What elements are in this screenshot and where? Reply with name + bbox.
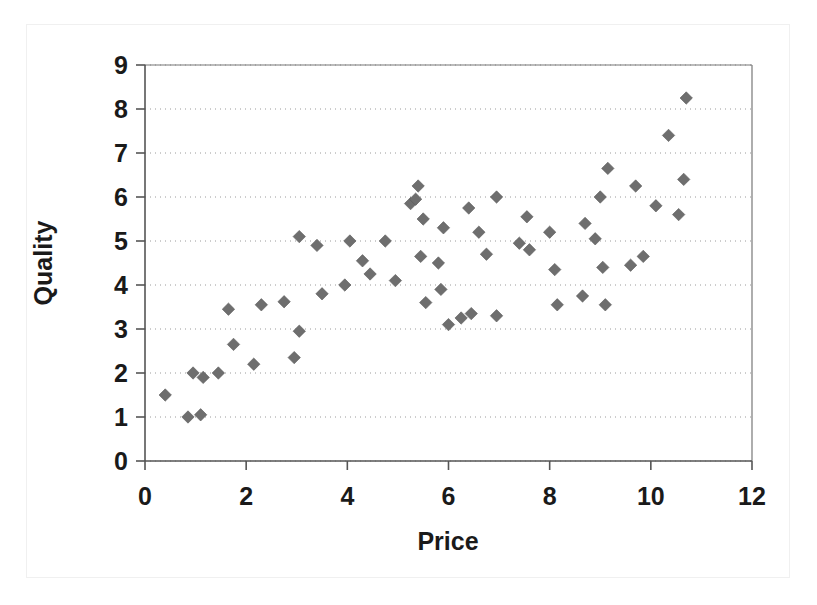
data-point-marker [389,274,401,286]
y-tick-label: 5 [114,227,128,255]
y-axis-ticks [136,65,145,461]
x-tick-label: 12 [738,482,766,510]
data-point-marker [293,325,305,337]
data-point-marker [599,299,611,311]
x-tick-label: 10 [637,482,665,510]
y-tick-label: 3 [114,315,128,343]
data-point-marker [227,338,239,350]
x-tick-label: 0 [138,482,152,510]
data-point-marker [473,226,485,238]
y-tick-label: 9 [114,51,128,79]
data-point-marker [624,259,636,271]
data-point-marker [480,248,492,260]
data-point-marker [678,173,690,185]
data-point-marker [662,129,674,141]
data-point-marker [490,191,502,203]
data-point-marker [194,409,206,421]
plot-canvas: 0123456789 024681012 Quality Price [0,0,817,605]
data-point-marker [339,279,351,291]
data-point-marker [222,303,234,315]
data-point-marker [417,213,429,225]
gridlines [145,65,752,461]
data-point-marker [602,162,614,174]
data-point-marker [379,235,391,247]
data-point-marker [248,358,260,370]
data-point-marker [212,367,224,379]
data-point-marker [356,255,368,267]
x-tick-label: 6 [442,482,456,510]
x-tick-label: 2 [239,482,253,510]
data-point-marker [513,237,525,249]
data-point-marker [278,296,290,308]
axes [145,65,752,461]
data-point-marker [672,208,684,220]
data-point-marker [521,211,533,223]
y-tick-label: 8 [114,95,128,123]
data-point-marker [437,222,449,234]
data-point-marker [637,250,649,262]
data-point-marker [543,226,555,238]
data-point-marker [414,250,426,262]
data-point-marker [589,233,601,245]
data-point-marker [579,217,591,229]
data-point-marker [293,230,305,242]
y-tick-label: 6 [114,183,128,211]
data-point-marker [549,263,561,275]
data-point-marker [420,296,432,308]
x-axis-tick-labels: 024681012 [138,482,766,510]
y-axis-tick-labels: 0123456789 [114,51,128,475]
y-axis-title: Quality [29,221,57,306]
data-point-marker [288,351,300,363]
data-point-marker [463,202,475,214]
data-point-marker [255,299,267,311]
data-point-marker [490,310,502,322]
y-tick-label: 7 [114,139,128,167]
x-tick-label: 8 [543,482,557,510]
scatter-plot-figure: 0123456789 024681012 Quality Price [0,0,817,605]
x-axis-title: Price [417,527,478,555]
data-point-marker [594,191,606,203]
data-point-marker [159,389,171,401]
data-point-marker [597,261,609,273]
data-point-marker [412,180,424,192]
data-point-marker [182,411,194,423]
data-point-marker [629,180,641,192]
data-point-marker [576,290,588,302]
x-tick-label: 4 [340,482,354,510]
data-point-marker [344,235,356,247]
y-tick-label: 0 [114,447,128,475]
x-axis-ticks [145,461,752,470]
data-point-marker [523,244,535,256]
data-point-marker [364,268,376,280]
y-tick-label: 2 [114,359,128,387]
y-tick-label: 1 [114,403,128,431]
data-point-marker [311,239,323,251]
data-point-marker [680,92,692,104]
data-point-marker [650,200,662,212]
data-point-marker [442,318,454,330]
data-point-marker [432,257,444,269]
plot-frame [145,65,752,461]
data-point-marker [316,288,328,300]
y-tick-label: 4 [114,271,128,299]
data-point-marker [551,299,563,311]
